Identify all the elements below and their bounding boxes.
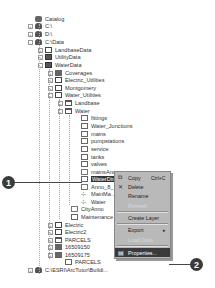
tree-item-label: pumpstations xyxy=(91,138,124,144)
tree-item-label: Water_Utilities xyxy=(65,92,101,98)
feature-class-icon xyxy=(81,161,88,167)
menu-item-label: Export xyxy=(128,227,144,233)
catalog-tree: Catalog+C:\+D:\-C:\Data+LandbaseData+Uti… xyxy=(0,0,215,288)
tree-item[interactable]: PARCELS xyxy=(58,258,101,266)
tree-item[interactable]: CityAnno xyxy=(64,205,104,213)
tree-connector-line xyxy=(39,24,40,274)
tree-item-label: C:\ xyxy=(45,23,52,29)
menu-item-label: Properties... xyxy=(128,250,157,256)
tree-item[interactable]: valves xyxy=(74,160,107,168)
tree-item-label: valves xyxy=(91,161,107,167)
feature-class-icon xyxy=(81,115,88,121)
context-menu: ⧉CopyCtrl+C✕DeleteRenameRefreshCreate La… xyxy=(114,171,171,259)
tree-item-label: C:\Data xyxy=(45,39,64,45)
menu-item-label: Copy xyxy=(128,175,141,181)
tree-item-label: Landbase xyxy=(75,100,100,106)
menu-item-export[interactable]: Export▸ xyxy=(115,225,170,234)
folder-icon xyxy=(45,62,52,68)
menu-item-create-layer[interactable]: Create Layer xyxy=(115,213,170,222)
tree-item-label: Electric2 xyxy=(65,229,86,235)
geodatabase-icon xyxy=(55,77,62,83)
tree-item-label: D:\ xyxy=(45,31,52,37)
relationship-class-icon: ⊹ xyxy=(81,191,88,197)
menu-item-label: Delete xyxy=(128,184,144,190)
tree-connector-line xyxy=(49,69,50,259)
tree-item[interactable]: Water_Junctions xyxy=(74,122,132,130)
tree-item-label: fittings xyxy=(91,115,107,121)
callout-2-line xyxy=(169,264,191,265)
table-icon xyxy=(71,214,78,220)
tree-item-label: PARCELS xyxy=(75,259,101,265)
tree-item[interactable]: service xyxy=(74,145,109,153)
tree-item[interactable]: +Electric2 xyxy=(48,228,86,236)
folder-icon xyxy=(45,54,52,60)
menu-item-load-data[interactable]: Load Data xyxy=(115,235,170,244)
tree-item[interactable]: Maintenance xyxy=(64,213,113,221)
tree-item[interactable]: +C:\ESRI\ArcTutor\Buildi... xyxy=(28,266,108,274)
callout-1: 1 xyxy=(2,176,15,189)
copy-icon: ⧉ xyxy=(118,174,122,181)
expand-icon[interactable]: + xyxy=(28,24,33,29)
tree-item[interactable]: -C:\Data xyxy=(28,38,64,46)
delete-icon: ✕ xyxy=(118,183,123,190)
tree-item[interactable]: +D:\ xyxy=(28,30,52,38)
menu-item-refresh[interactable]: Refresh xyxy=(115,201,170,210)
tree-item[interactable]: +Landbase xyxy=(58,99,100,107)
tree-item-label: CityAnno xyxy=(81,206,104,212)
tree-connector-line xyxy=(69,115,70,205)
tree-item[interactable]: fittings xyxy=(74,114,107,122)
callout-2: 2 xyxy=(190,258,203,271)
expand-icon[interactable]: + xyxy=(28,32,33,37)
tree-item[interactable]: pumpstations xyxy=(74,137,124,145)
expand-icon[interactable]: + xyxy=(28,268,33,273)
properties-icon: ▤ xyxy=(118,249,124,256)
dimension-class-icon xyxy=(81,176,88,182)
raster-icon xyxy=(55,244,62,250)
tree-item-label: 16509150 xyxy=(65,244,90,250)
tree-item-label: Water_Junctions xyxy=(91,123,132,129)
geodatabase-icon xyxy=(55,92,62,98)
callout-1-line xyxy=(14,182,82,183)
feature-class-icon xyxy=(81,123,88,129)
menu-item-label: Create Layer xyxy=(128,215,159,221)
menu-separator xyxy=(117,211,168,213)
tree-item-label: WaterData xyxy=(55,62,82,68)
tree-item-label: C:\ESRI\ArcTutor\Buildi... xyxy=(45,267,108,273)
tree-item-label: Maintenance xyxy=(81,214,113,220)
tree-item[interactable]: -WaterData xyxy=(38,61,82,69)
menu-separator xyxy=(117,245,168,247)
menu-item-delete[interactable]: ✕Delete xyxy=(115,182,170,191)
tree-item-label: Electric_Utilities xyxy=(65,77,104,83)
feature-dataset-icon xyxy=(65,100,72,106)
tree-item[interactable]: ⊹MainMa... xyxy=(74,190,116,198)
tree-item-label: UtilityData xyxy=(55,54,81,60)
annotation-class-icon xyxy=(71,206,78,212)
menu-item-label: Load Data xyxy=(128,237,153,243)
collapse-icon[interactable]: - xyxy=(28,40,33,45)
tree-item[interactable]: +16509150 xyxy=(48,243,90,251)
feature-class-icon xyxy=(81,138,88,144)
menu-item-shortcut: Ctrl+C xyxy=(151,175,165,181)
tree-item-label: service xyxy=(91,146,109,152)
menu-item-properties[interactable]: ▤Properties... xyxy=(115,248,170,257)
tree-item-label: MainMa... xyxy=(91,191,116,197)
shapefile-icon xyxy=(65,259,72,265)
menu-separator xyxy=(117,223,168,225)
menu-item-label: Refresh xyxy=(128,203,147,209)
menu-item-label: Rename xyxy=(128,193,148,199)
tree-item[interactable]: +Electric_Utilities xyxy=(48,76,104,84)
menu-item-copy[interactable]: ⧉CopyCtrl+C xyxy=(115,173,170,182)
submenu-arrow-icon: ▸ xyxy=(163,227,166,233)
feature-class-icon xyxy=(81,146,88,152)
tree-connector-line xyxy=(59,99,60,219)
feature-dataset-icon xyxy=(65,108,72,114)
tree-item[interactable]: +C:\ xyxy=(28,22,52,30)
menu-item-rename[interactable]: Rename xyxy=(115,191,170,200)
geodatabase-icon xyxy=(55,229,62,235)
tree-item[interactable]: +UtilityData xyxy=(38,53,81,61)
tree-item[interactable]: -Water_Utilities xyxy=(48,91,101,99)
